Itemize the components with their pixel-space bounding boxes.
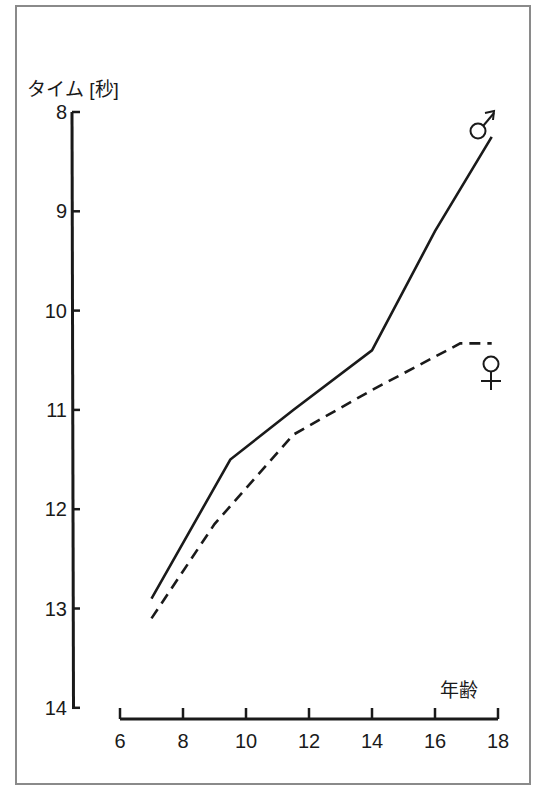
x-tick-label: 8 (177, 730, 188, 752)
x-tick-label: 18 (487, 730, 509, 752)
x-tick-label: 10 (235, 730, 257, 752)
female-symbol-icon (481, 357, 501, 391)
x-tick-label: 6 (114, 730, 125, 752)
x-tick-label: 16 (424, 730, 446, 752)
x-axis-title: 年齢 (440, 680, 478, 701)
female-series-line (152, 343, 492, 618)
x-axis: 681012141618 (114, 708, 509, 752)
x-tick-label: 12 (298, 730, 320, 752)
y-tick-label: 8 (56, 101, 67, 123)
y-tick-label: 10 (45, 300, 67, 322)
y-tick-label: 13 (45, 598, 67, 620)
line-chart: タイム [秒] 891011121314 681012141618 年齢 (0, 0, 553, 799)
y-tick-label: 11 (46, 399, 67, 421)
y-tick-label: 14 (45, 697, 67, 719)
x-tick-label: 14 (361, 730, 383, 752)
male-series-line (152, 137, 492, 599)
y-axis-title: タイム [秒] (27, 79, 119, 100)
y-tick-label: 9 (56, 200, 67, 222)
y-axis: 891011121314 (45, 101, 80, 719)
male-symbol-icon (471, 111, 495, 139)
y-tick-label: 12 (45, 498, 67, 520)
